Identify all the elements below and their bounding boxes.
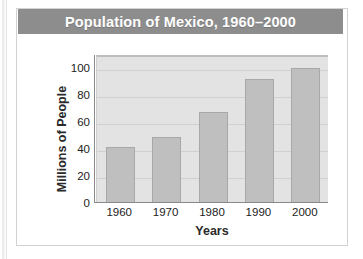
bar-chart: Millions of People 020406080100 19601970… [16,36,348,244]
figure-title-band: Population of Mexico, 1960–2000 [18,9,343,34]
x-axis-title: Years [96,224,328,238]
y-tick-label: 80 [77,89,90,101]
x-tick-label: 1980 [199,206,225,218]
y-axis-tick-labels: 020406080100 [60,55,90,203]
bar [291,68,320,203]
y-tick-label: 20 [77,170,90,182]
bar [245,79,274,203]
x-tick-label: 2000 [292,206,318,218]
page-scan-edge-line [6,0,7,259]
y-tick-label: 40 [77,143,90,155]
bar [106,147,135,204]
plot-area [96,55,328,203]
bars-layer [97,57,328,203]
figure-title: Population of Mexico, 1960–2000 [65,14,296,30]
page-scan-edge-artifact [2,0,5,259]
x-tick-label: 1970 [153,206,179,218]
x-axis-tick-labels: 19601970198019902000 [96,206,328,222]
y-tick-label: 100 [71,62,90,74]
y-axis-line [94,55,95,203]
x-tick-label: 1960 [106,206,132,218]
bar [199,112,228,203]
x-axis-line [94,202,328,203]
bar [152,137,181,203]
y-tick-label: 60 [77,116,90,128]
x-tick-label: 1990 [246,206,272,218]
y-tick-label: 0 [84,197,90,209]
